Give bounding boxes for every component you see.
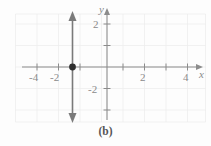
x-tick-label-4: 4 bbox=[183, 72, 189, 83]
y-axis bbox=[104, 8, 111, 120]
x-tick-label-2: 2 bbox=[140, 72, 146, 83]
graph-line-top-arrowhead bbox=[69, 11, 77, 21]
grid-lines bbox=[16, 14, 206, 122]
graph-line-bottom-arrowhead bbox=[69, 113, 77, 123]
y-tick-label-2: 2 bbox=[93, 19, 99, 30]
x-tick-label-negative-2: -2 bbox=[50, 72, 59, 83]
y-axis-arrowhead bbox=[104, 8, 110, 15]
figure-caption: (b) bbox=[0, 126, 211, 138]
plotted-point-dot bbox=[69, 64, 76, 71]
x-axis bbox=[22, 64, 203, 71]
x-axis-name: x bbox=[199, 69, 204, 80]
graph-line-x-equals-negative-2 bbox=[69, 11, 77, 123]
y-tick-label-negative-2: -2 bbox=[88, 84, 97, 95]
graph-figure: -4 -2 2 4 2 -2 x y (b) bbox=[0, 0, 211, 146]
x-tick-label-negative-4: -4 bbox=[29, 72, 38, 83]
y-axis-name: y bbox=[99, 4, 104, 15]
